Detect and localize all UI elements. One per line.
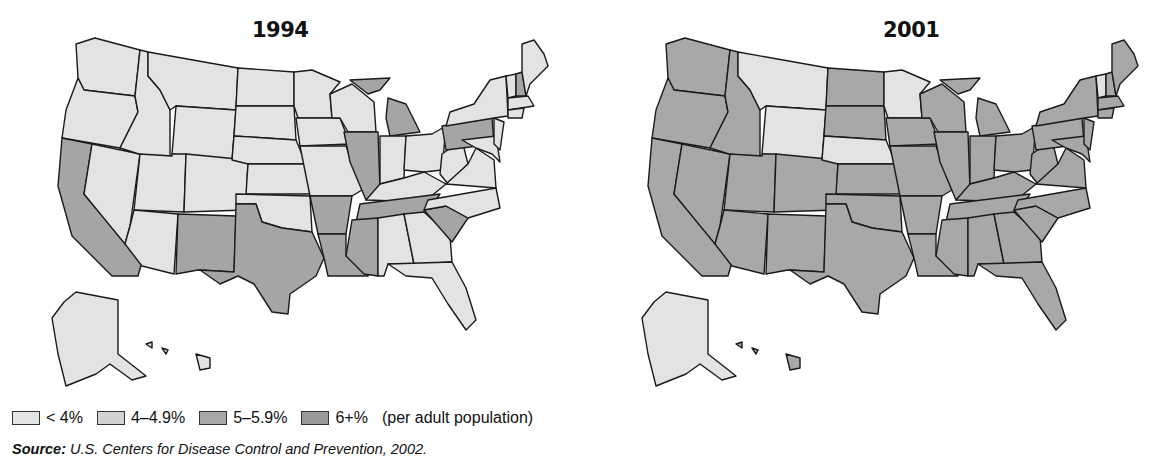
- legend-note: (per adult population): [382, 409, 533, 427]
- state-nj: [1084, 118, 1094, 150]
- state-nm: [766, 214, 826, 274]
- state-nd: [236, 68, 294, 106]
- state-wy: [762, 106, 826, 160]
- state-hi: [146, 342, 210, 370]
- legend-swatch: [301, 411, 329, 425]
- state-in: [970, 136, 996, 184]
- legend-label: 4–4.9%: [131, 409, 185, 427]
- state-ks: [836, 164, 900, 194]
- state-sd: [234, 106, 296, 140]
- state-me: [1112, 40, 1138, 96]
- state-nm: [176, 214, 236, 274]
- state-nd: [826, 68, 884, 106]
- state-ak: [642, 292, 736, 386]
- legend-item-6-plus: 6+%: [301, 409, 367, 427]
- state-ar: [310, 196, 352, 234]
- state-ut: [724, 154, 776, 212]
- state-wa: [666, 38, 730, 96]
- source-label: Source:: [12, 441, 66, 457]
- map-panel-2001: 2001: [590, 14, 1159, 404]
- state-wy: [172, 106, 236, 160]
- state-ne: [822, 136, 896, 164]
- legend-item-4-4.9: 4–4.9%: [97, 409, 185, 427]
- state-ne: [232, 136, 306, 164]
- legend-item-5-5.9: 5–5.9%: [199, 409, 287, 427]
- state-ut: [134, 154, 186, 212]
- state-fl: [978, 262, 1066, 330]
- state-ct: [1098, 108, 1114, 118]
- us-state-map-2001: [590, 14, 1159, 404]
- state-ak: [52, 292, 146, 386]
- state-nj: [494, 118, 504, 150]
- state-fl: [388, 262, 476, 330]
- state-vt: [506, 74, 516, 98]
- source-citation: Source: U.S. Centers for Disease Control…: [12, 441, 427, 457]
- legend-swatch: [199, 411, 227, 425]
- state-vt: [1096, 74, 1106, 98]
- state-wa: [76, 38, 140, 96]
- state-ct: [508, 108, 524, 118]
- legend-swatch: [12, 411, 40, 425]
- legend-label: 6+%: [335, 409, 367, 427]
- state-me: [522, 40, 548, 96]
- state-ny: [446, 76, 508, 126]
- clipped-figure-title: [0, 0, 1159, 4]
- map-panel-1994: 1994: [0, 14, 580, 404]
- legend-label: < 4%: [46, 409, 83, 427]
- state-ar: [900, 196, 942, 234]
- map-legend: < 4% 4–4.9% 5–5.9% 6+% (per adult popula…: [12, 409, 533, 427]
- legend-label: 5–5.9%: [233, 409, 287, 427]
- us-state-map-1994: [0, 14, 580, 404]
- legend-swatch: [97, 411, 125, 425]
- state-in: [380, 136, 406, 184]
- source-text: U.S. Centers for Disease Control and Pre…: [66, 441, 427, 457]
- state-hi: [736, 342, 800, 370]
- state-ny: [1036, 76, 1098, 126]
- state-sd: [824, 106, 886, 140]
- legend-item-under-4: < 4%: [12, 409, 83, 427]
- state-ks: [246, 164, 310, 194]
